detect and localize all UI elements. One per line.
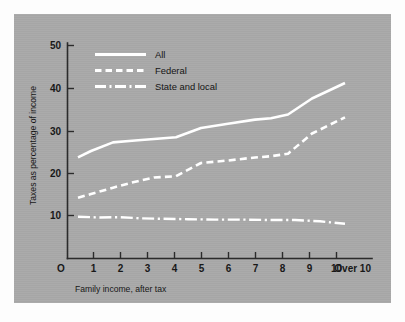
- y-tick-label-30: 30: [50, 126, 62, 137]
- y-tick-label-50: 50: [50, 40, 62, 51]
- figure-page: 10 20 30 40 50 Taxes as percentage of in…: [0, 0, 405, 322]
- x-tick-label-5: 5: [199, 263, 205, 274]
- x-tick-label-8: 8: [280, 263, 286, 274]
- x-tick-label-9: 9: [307, 263, 313, 274]
- x-tick-label-4: 4: [172, 263, 178, 274]
- series-line-federal: [78, 117, 345, 198]
- y-tick-label-20: 20: [50, 168, 62, 179]
- y-tick-label-10: 10: [50, 210, 62, 221]
- y-tick-marks: [68, 46, 75, 216]
- y-tick-label-40: 40: [50, 83, 62, 94]
- legend: All Federal State and local: [95, 49, 217, 92]
- legend-label-federal: Federal: [155, 65, 187, 76]
- series-line-state-and-local: [78, 217, 345, 224]
- legend-label-all: All: [155, 49, 165, 60]
- x-tick-label-3: 3: [145, 263, 151, 274]
- x-tick-label-7: 7: [253, 263, 259, 274]
- x-tick-label-1: 1: [91, 263, 97, 274]
- x-tick-label-6: 6: [226, 263, 232, 274]
- series-line-all: [78, 83, 345, 157]
- x-tick-label-2: 2: [118, 263, 124, 274]
- x-axis-title: Family income, after tax: [75, 284, 167, 294]
- legend-label-state-and-local: State and local: [155, 81, 217, 92]
- y-axis-title: Taxes as percentage of income: [28, 86, 38, 205]
- origin-label: O: [57, 263, 65, 274]
- chart-canvas: 10 20 30 40 50 Taxes as percentage of in…: [0, 0, 405, 322]
- x-tick-label-over-10: Over 10: [334, 263, 371, 274]
- x-tick-marks: [94, 252, 337, 259]
